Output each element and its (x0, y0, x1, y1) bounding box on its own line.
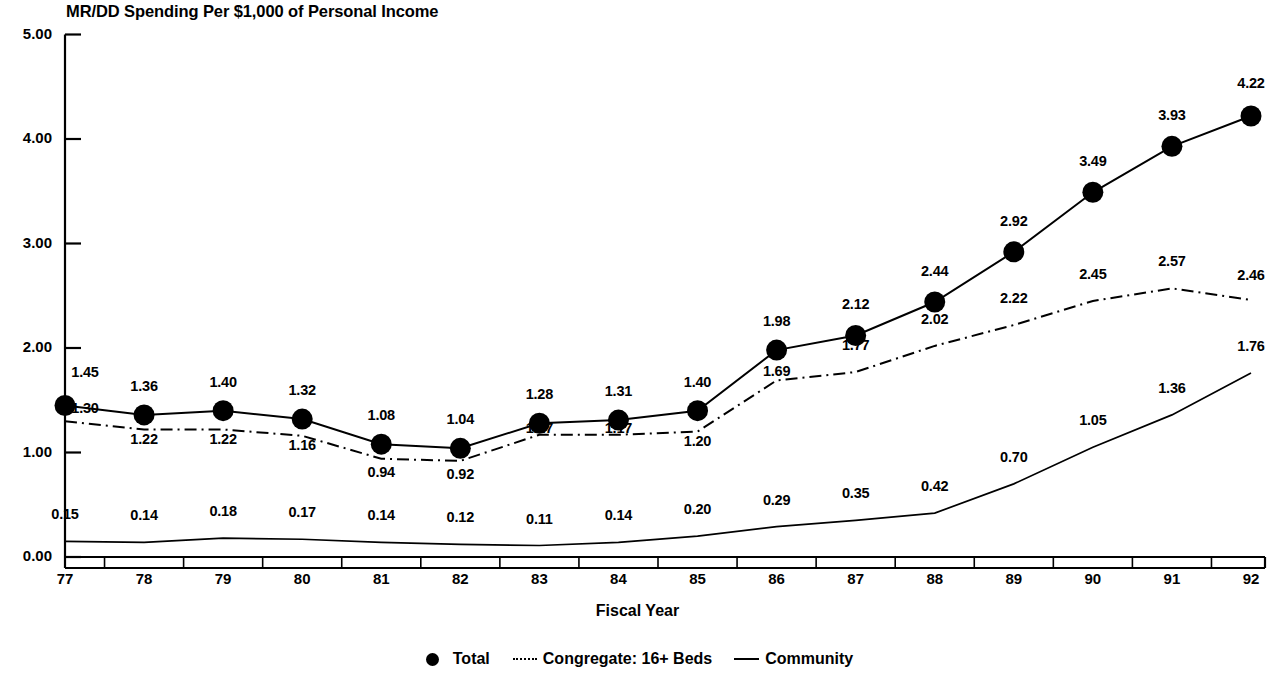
x-axis-tick-label: 81 (361, 570, 401, 587)
data-label: 2.45 (1067, 266, 1119, 282)
data-label: 1.36 (1146, 380, 1198, 396)
data-label: 1.40 (672, 374, 724, 390)
x-axis-tick-label: 88 (915, 570, 955, 587)
data-label: 1.77 (830, 337, 882, 353)
data-label: 0.12 (434, 509, 486, 525)
data-label: 0.14 (592, 507, 644, 523)
data-label: 1.69 (751, 363, 803, 379)
data-label: 1.16 (276, 437, 328, 453)
data-label: 1.31 (592, 383, 644, 399)
data-label: 2.12 (830, 296, 882, 312)
data-label: 1.22 (118, 431, 170, 447)
data-label: 1.20 (672, 433, 724, 449)
data-label: 2.92 (988, 213, 1040, 229)
data-label: 4.22 (1225, 75, 1275, 91)
x-axis-tick-label: 83 (519, 570, 559, 587)
legend-item-congregate[interactable]: Congregate: 16+ Beds (512, 650, 712, 668)
data-label: 0.94 (355, 464, 407, 480)
x-axis-tick-label: 82 (440, 570, 480, 587)
data-label: 1.45 (59, 364, 111, 380)
x-axis-title: Fiscal Year (0, 602, 1275, 620)
data-label: 1.30 (59, 400, 111, 416)
solid-line-icon (734, 652, 760, 666)
data-label: 0.14 (118, 507, 170, 523)
data-label: 1.40 (197, 374, 249, 390)
chart-container: MR/DD Spending Per $1,000 of Personal In… (0, 0, 1275, 678)
legend-label-total: Total (453, 650, 490, 668)
x-axis-tick-label: 89 (994, 570, 1034, 587)
data-label: 1.05 (1067, 412, 1119, 428)
data-label: 1.36 (118, 378, 170, 394)
data-label: 0.15 (39, 506, 91, 522)
legend-label-community: Community (765, 650, 853, 668)
data-label: 2.46 (1225, 267, 1275, 283)
data-label: 3.93 (1146, 107, 1198, 123)
data-label: 2.44 (909, 263, 961, 279)
data-label: 1.98 (751, 313, 803, 329)
x-axis-tick-label: 79 (203, 570, 243, 587)
data-label: 0.14 (355, 507, 407, 523)
filled-circle-icon (422, 652, 448, 666)
x-axis-tick-label: 77 (45, 570, 85, 587)
dash-dot-line-icon (512, 652, 538, 666)
legend-item-community[interactable]: Community (734, 650, 853, 668)
data-label: 0.92 (434, 466, 486, 482)
data-label: 3.49 (1067, 153, 1119, 169)
data-label: 1.17 (592, 420, 644, 436)
data-label: 0.29 (751, 492, 803, 508)
data-label: 1.28 (513, 386, 565, 402)
y-axis-tick-label: 3.00 (6, 234, 52, 251)
x-axis-tick-label: 87 (836, 570, 876, 587)
axes (65, 35, 1265, 569)
data-label: 0.17 (276, 504, 328, 520)
x-axis-tick-label: 86 (757, 570, 797, 587)
series-lines (65, 116, 1251, 545)
data-label: 1.08 (355, 407, 407, 423)
data-label: 2.57 (1146, 253, 1198, 269)
x-axis-tick-label: 92 (1231, 570, 1271, 587)
chart-legend: Total Congregate: 16+ Beds Community (0, 650, 1275, 668)
legend-item-total[interactable]: Total (422, 650, 490, 668)
y-axis-tick-label: 4.00 (6, 129, 52, 146)
legend-label-congregate: Congregate: 16+ Beds (543, 650, 712, 668)
data-label: 1.32 (276, 382, 328, 398)
data-label: 0.35 (830, 485, 882, 501)
y-axis-tick-label: 5.00 (6, 25, 52, 42)
data-label: 0.20 (672, 501, 724, 517)
data-label: 2.02 (909, 311, 961, 327)
data-label: 0.70 (988, 449, 1040, 465)
x-axis-tick-label: 91 (1152, 570, 1192, 587)
x-axis-tick-label: 85 (678, 570, 718, 587)
data-label: 0.42 (909, 478, 961, 494)
x-axis-tick-label: 80 (282, 570, 322, 587)
y-axis-tick-label: 1.00 (6, 443, 52, 460)
data-label: 0.11 (513, 511, 565, 527)
x-axis-tick-label: 90 (1073, 570, 1113, 587)
y-axis-tick-label: 2.00 (6, 338, 52, 355)
data-label: 1.76 (1225, 338, 1275, 354)
y-axis-tick-label: 0.00 (6, 547, 52, 564)
x-axis-tick-label: 78 (124, 570, 164, 587)
data-label: 2.22 (988, 290, 1040, 306)
data-label: 1.22 (197, 431, 249, 447)
data-label: 0.18 (197, 503, 249, 519)
data-label: 1.17 (513, 420, 565, 436)
x-axis-tick-label: 84 (598, 570, 638, 587)
data-label: 1.04 (434, 411, 486, 427)
